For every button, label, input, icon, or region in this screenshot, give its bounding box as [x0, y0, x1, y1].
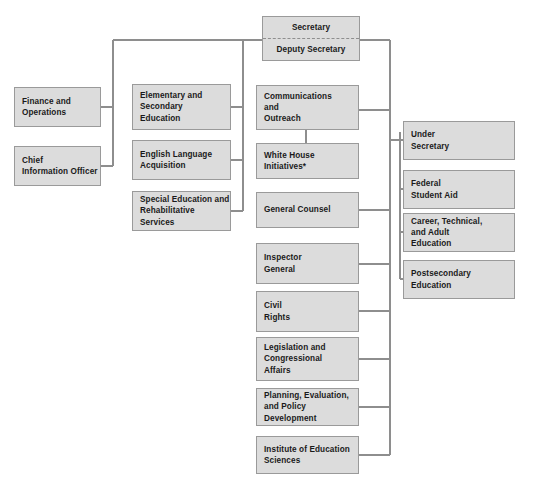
node-under-secretary[interactable]: Under Secretary [403, 121, 515, 160]
node-white-house-initiatives[interactable]: White House Initiatives* [256, 143, 359, 179]
node-secretary[interactable]: Secretary Deputy Secretary [262, 16, 360, 61]
node-special-education-and-rehabilitative-services[interactable]: Special Education and Rehabilitative Ser… [132, 191, 231, 231]
node-english-language-acquisition[interactable]: English Language Acquisition [132, 140, 231, 180]
node-inspector-general[interactable]: Inspector General [256, 243, 359, 284]
secretary-label: Secretary [263, 17, 359, 39]
node-institute-of-education-sciences[interactable]: Institute of Education Sciences [256, 436, 359, 474]
node-legislation-and-congressional-affairs[interactable]: Legislation and Congressional Affairs [256, 337, 359, 381]
node-postsecondary-education[interactable]: Postsecondary Education [403, 260, 515, 299]
node-finance-and-operations[interactable]: Finance and Operations [14, 87, 101, 127]
node-elementary-and-secondary-education[interactable]: Elementary and Secondary Education [132, 84, 231, 130]
node-planning-evaluation-and-policy-development[interactable]: Planning, Evaluation, and Policy Develop… [256, 388, 359, 426]
deputy-secretary-label: Deputy Secretary [263, 39, 359, 60]
node-civil-rights[interactable]: Civil Rights [256, 291, 359, 332]
node-career-technical-and-adult-education[interactable]: Career, Technical, and Adult Education [403, 213, 515, 252]
org-chart: Secretary Deputy Secretary Finance and O… [0, 0, 534, 493]
node-federal-student-aid[interactable]: Federal Student Aid [403, 170, 515, 209]
node-communications-and-outreach[interactable]: Communications and Outreach [256, 85, 359, 130]
node-chief-information-officer[interactable]: Chief Information Officer [14, 146, 101, 186]
node-general-counsel[interactable]: General Counsel [256, 192, 359, 228]
